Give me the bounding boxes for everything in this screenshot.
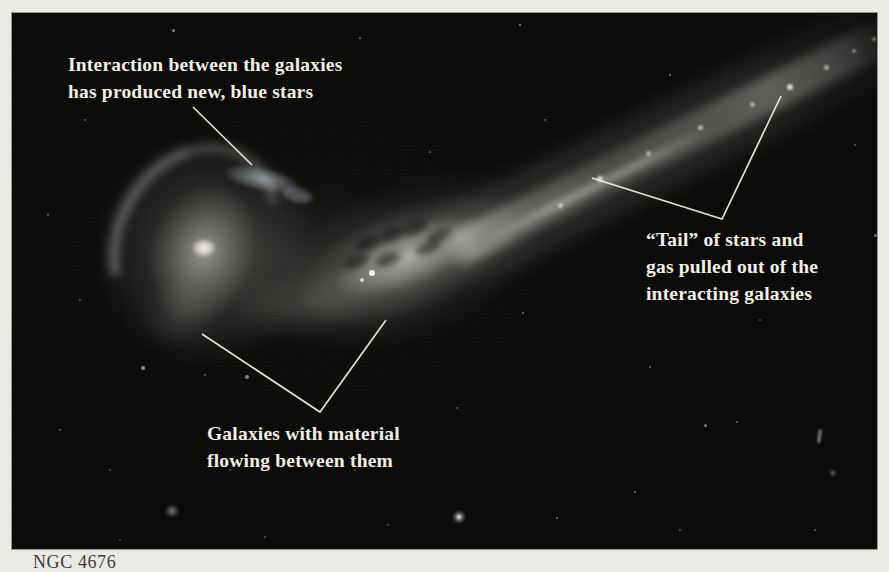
star (119, 539, 121, 541)
annotation-text-line: flowing between them (207, 447, 400, 474)
star (736, 421, 739, 424)
star (649, 366, 652, 369)
star (544, 119, 546, 121)
star (679, 529, 681, 531)
annotation-bridge: Galaxies with material flowing between t… (207, 420, 400, 474)
tail-knot (558, 203, 563, 208)
tail-knot (824, 65, 829, 70)
tail-knot (787, 84, 793, 90)
star (172, 29, 175, 32)
star-forming-knot (360, 278, 364, 282)
annotation-text-line: has produced new, blue stars (68, 78, 342, 105)
star (429, 151, 431, 153)
tail-knot (698, 125, 703, 130)
star (556, 517, 559, 520)
star (874, 234, 877, 237)
tail-knot (872, 37, 876, 41)
star-forming-knot (369, 270, 375, 276)
annotation-text-line: Interaction between the galaxies (68, 51, 342, 78)
tail-knot (750, 102, 755, 107)
tail-knot (646, 151, 651, 156)
star (59, 429, 62, 432)
tail-knot (852, 49, 856, 53)
annotation-text-line: “Tail” of stars and (646, 226, 818, 253)
star (456, 407, 458, 409)
annotation-blue-stars: Interaction between the galaxies has pro… (68, 51, 342, 105)
star (522, 312, 525, 315)
star (245, 375, 249, 379)
annotation-text-line: interacting galaxies (646, 280, 818, 307)
star (47, 214, 49, 216)
star (109, 469, 111, 471)
star (634, 491, 637, 494)
star (759, 319, 761, 321)
star (204, 374, 207, 377)
annotation-text-line: Galaxies with material (207, 420, 400, 447)
star (387, 524, 389, 526)
figure-caption: NGC 4676 (33, 552, 116, 572)
tail-knot (597, 176, 603, 182)
bright-star (450, 508, 468, 526)
star (79, 299, 81, 301)
annotation-text-line: gas pulled out of the (646, 253, 818, 280)
star (519, 24, 522, 27)
star (669, 74, 671, 76)
star (359, 37, 361, 39)
star (854, 144, 856, 146)
edge-on-background-galaxy (817, 429, 822, 443)
star (704, 424, 707, 427)
star (141, 366, 145, 370)
left-galaxy-core (187, 235, 221, 261)
star (814, 529, 816, 531)
star (264, 536, 266, 538)
background-galaxy (164, 503, 180, 519)
faint-background-object (829, 469, 837, 477)
star (84, 119, 86, 121)
annotation-tail: “Tail” of stars and gas pulled out of th… (646, 226, 818, 307)
